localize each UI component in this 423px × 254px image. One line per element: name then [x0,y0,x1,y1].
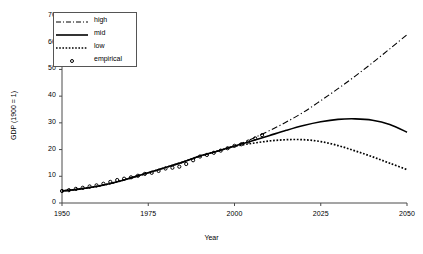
legend-label-mid: mid [90,29,105,36]
y-axis-title: GDP (1900 = 1) [10,91,17,140]
y-tick-label: 10 [30,171,56,178]
y-tick-label: 0 [30,198,56,205]
y-tick-label: 20 [30,145,56,152]
x-tick-label: 1950 [42,210,82,217]
legend-swatch-low [54,40,90,52]
x-tick-label: 2000 [215,210,255,217]
series-empirical [60,134,263,193]
x-tick-label: 2025 [301,210,341,217]
legend-swatch-mid [54,27,90,39]
legend-swatch-empirical [54,53,90,65]
chart-legend: high mid low empirical [53,12,137,67]
gdp-projection-chart: 010203040506070 19501975200020252050 GDP… [0,0,423,254]
x-tick-label: 1975 [128,210,168,217]
legend-item-low: low [54,39,136,52]
legend-label-high: high [90,16,107,23]
legend-item-mid: mid [54,26,136,39]
legend-swatch-high [54,14,90,26]
legend-label-empirical: empirical [90,55,122,62]
legend-item-high: high [54,13,136,26]
legend-item-empirical: empirical [54,52,136,65]
y-tick-label: 40 [30,91,56,98]
y-tick-label: 30 [30,118,56,125]
legend-label-low: low [90,42,105,49]
series-mid [62,119,407,191]
x-axis-title: Year [0,234,423,241]
x-tick-label: 2050 [387,210,423,217]
